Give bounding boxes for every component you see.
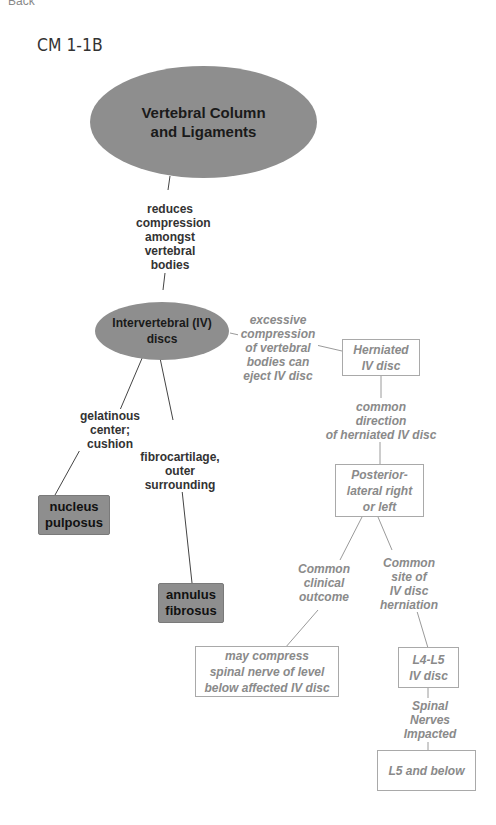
link-label-spinal-nerves: Spinal Nerves Impacted [402, 699, 458, 741]
node-may-compress-label: may compress spinal nerve of level below… [204, 648, 329, 696]
link-label-excessive-compression: excessive compression of vertebral bodie… [238, 313, 318, 383]
link-label-clinical-outcome: Common clinical outcome [294, 562, 354, 604]
node-annulus-fibrosus[interactable]: annulus fibrosus [158, 583, 224, 623]
node-herniated-disc[interactable]: Herniated IV disc [342, 339, 420, 376]
node-nucleus-pulposus[interactable]: nucleus pulposus [38, 495, 110, 535]
link-label-reduces-compression: reduces compression amongst vertebral bo… [136, 202, 204, 272]
node-may-compress[interactable]: may compress spinal nerve of level below… [195, 646, 339, 697]
node-l5-below-label: L5 and below [388, 763, 464, 779]
node-nucleus-pulposus-label: nucleus pulposus [45, 499, 103, 531]
link-label-fibrocartilage: fibrocartilage, outer surrounding [133, 450, 227, 492]
node-vertebral-column[interactable]: Vertebral Column and Ligaments [90, 66, 317, 178]
node-posterior-lateral[interactable]: Posterior- lateral right or left [335, 464, 424, 517]
link-label-common-site: Common site of IV disc herniation [378, 556, 440, 612]
node-l4-l5[interactable]: L4-L5 IV disc [398, 647, 459, 688]
link-label-gelatinous-center: gelatinous center; cushion [75, 409, 145, 451]
node-posterior-lateral-label: Posterior- lateral right or left [347, 467, 412, 515]
node-herniated-disc-label: Herniated IV disc [353, 342, 408, 374]
node-iv-discs-label: Intervertebral (IV) discs [112, 315, 211, 347]
node-l4-l5-label: L4-L5 IV disc [409, 652, 448, 684]
node-l5-below[interactable]: L5 and below [377, 750, 476, 791]
node-iv-discs[interactable]: Intervertebral (IV) discs [95, 302, 229, 360]
node-vertebral-column-label: Vertebral Column and Ligaments [141, 103, 265, 141]
node-annulus-fibrosus-label: annulus fibrosus [165, 587, 216, 619]
link-label-common-direction: common direction of herniated IV disc [322, 400, 440, 442]
